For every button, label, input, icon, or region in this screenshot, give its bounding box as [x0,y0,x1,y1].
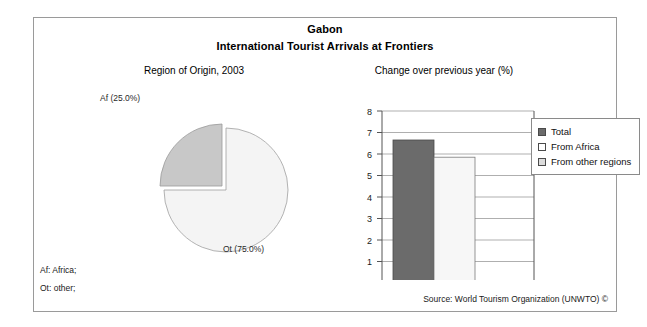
pie-chart-panel: Af (25.0%) Ot (75.0%) [54,80,344,265]
source-note: Source: World Tourism Organization (UNWT… [423,294,608,304]
legend-label-from-other-regions: From other regions [551,156,631,167]
legend-item-total[interactable]: Total [538,124,631,139]
figure-frame: Gabon International Tourist Arrivals at … [33,17,617,312]
bar-total[interactable] [393,140,434,280]
bar-chart-panel: 8 7 6 5 4 3 2 1 0 2003/2002 [329,80,614,280]
figure-subtitle: International Tourist Arrivals at Fronti… [34,40,616,52]
legend-swatch-from-other-regions [538,158,546,166]
y-tick-label-4: 4 [367,193,372,203]
y-tick-label-7: 7 [367,128,372,138]
legend-label-from-africa: From Africa [551,141,600,152]
y-tick-label-8: 8 [367,107,372,117]
legend-item-from-other-regions[interactable]: From other regions [538,154,631,169]
y-tick-label-2: 2 [367,236,372,246]
legend-swatch-total [538,128,546,136]
figure-title: Gabon [34,23,616,35]
y-tick-label-0: 0 [367,279,372,281]
pie-chart-svg: Af (25.0%) Ot (75.0%) [54,80,344,265]
pie-chart-title: Region of Origin, 2003 [89,65,299,76]
y-tick-label-5: 5 [367,171,372,181]
y-axis-ticks [377,111,382,280]
footnote-af: Af: Africa; [40,265,76,275]
y-tick-label-6: 6 [367,150,372,160]
y-tick-label-3: 3 [367,214,372,224]
bar-from-africa[interactable] [434,157,475,280]
legend-item-from-africa[interactable]: From Africa [538,139,631,154]
legend-label-total: Total [551,126,571,137]
pie-label-ot: Ot (75.0%) [223,244,264,254]
bar-chart-title: Change over previous year (%) [309,65,579,76]
y-tick-label-1: 1 [367,257,372,267]
pie-label-af: Af (25.0%) [100,93,140,103]
bar-chart-svg: 8 7 6 5 4 3 2 1 0 2003/2002 [329,80,614,280]
footnote-ot: Ot: other; [40,283,75,293]
legend-swatch-from-africa [538,143,546,151]
bar-chart-legend: Total From Africa From other regions [531,118,640,175]
pie-slice-af[interactable] [160,124,222,186]
